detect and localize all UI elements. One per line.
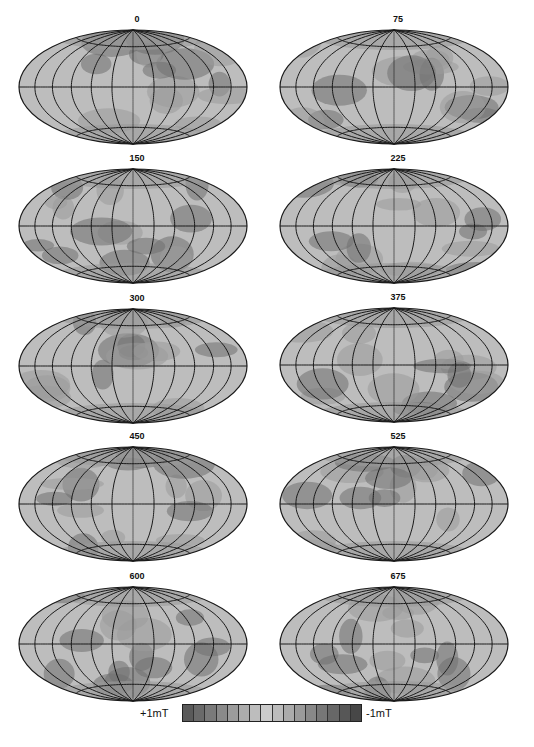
colorbar-cell bbox=[317, 705, 328, 721]
colorbar-cell bbox=[228, 705, 239, 721]
panel-label: 75 bbox=[278, 14, 518, 24]
panel-label: 525 bbox=[278, 431, 518, 441]
hammer-map bbox=[278, 585, 510, 703]
colorbar-cell bbox=[183, 705, 194, 721]
colorbar-left-label: +1mT bbox=[140, 707, 168, 719]
colorbar-cell bbox=[250, 705, 261, 721]
map-panel-675: 675 bbox=[278, 571, 518, 711]
map-panel-150: 150 bbox=[17, 153, 257, 293]
colorbar-cell bbox=[205, 705, 216, 721]
colorbar-right-label: -1mT bbox=[366, 707, 392, 719]
panel-label: 300 bbox=[17, 293, 257, 303]
hammer-map bbox=[278, 167, 510, 285]
colorbar-cell bbox=[351, 705, 361, 721]
hammer-map bbox=[17, 585, 249, 703]
colorbar-cell bbox=[239, 705, 250, 721]
colorbar-cell bbox=[194, 705, 205, 721]
hammer-map bbox=[17, 28, 249, 146]
map-panel-75: 75 bbox=[278, 14, 518, 154]
map-panel-0: 0 bbox=[17, 14, 257, 154]
map-panel-300: 300 bbox=[17, 293, 257, 433]
hammer-map bbox=[278, 28, 510, 146]
colorbar-cell bbox=[261, 705, 272, 721]
hammer-map bbox=[17, 445, 249, 563]
hammer-map bbox=[17, 307, 249, 425]
map-panel-600: 600 bbox=[17, 571, 257, 711]
colorbar-cell bbox=[340, 705, 351, 721]
colorbar-cell bbox=[306, 705, 317, 721]
colorbar-scale bbox=[182, 704, 362, 722]
colorbar-cell bbox=[284, 705, 295, 721]
colorbar-cell bbox=[328, 705, 339, 721]
map-panel-450: 450 bbox=[17, 431, 257, 571]
panel-label: 675 bbox=[278, 571, 518, 581]
map-panel-225: 225 bbox=[278, 153, 518, 293]
panel-label: 375 bbox=[278, 292, 518, 302]
colorbar-cell bbox=[217, 705, 228, 721]
map-panel-525: 525 bbox=[278, 431, 518, 571]
panel-label: 600 bbox=[17, 571, 257, 581]
panel-label: 0 bbox=[17, 14, 257, 24]
panel-label: 450 bbox=[17, 431, 257, 441]
hammer-map bbox=[278, 306, 510, 424]
colorbar-cell bbox=[273, 705, 284, 721]
panel-label: 225 bbox=[278, 153, 518, 163]
hammer-map bbox=[278, 445, 510, 563]
hammer-map bbox=[17, 167, 249, 285]
panel-label: 150 bbox=[17, 153, 257, 163]
map-panel-375: 375 bbox=[278, 292, 518, 432]
colorbar: +1mT -1mT bbox=[140, 704, 400, 724]
colorbar-cell bbox=[295, 705, 306, 721]
